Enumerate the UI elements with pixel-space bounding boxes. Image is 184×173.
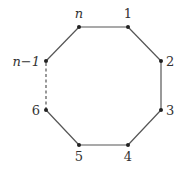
edge-n-1-n — [46, 27, 79, 61]
vertex-4 — [126, 143, 130, 147]
vertex-n-1 — [44, 59, 48, 63]
vertex-label-5: 5 — [75, 149, 83, 164]
vertex-n — [77, 25, 81, 29]
vertex-1 — [126, 25, 130, 29]
labels-group: n123456n−1 — [12, 6, 174, 164]
vertex-label-3: 3 — [166, 103, 174, 118]
edge-1-2 — [128, 27, 161, 61]
vertex-label-n: n — [75, 6, 83, 21]
vertex-label-4: 4 — [124, 149, 132, 164]
vertex-label-1: 1 — [124, 6, 132, 21]
diagram-svg: n123456n−1 — [0, 0, 184, 173]
vertex-label-n-1: n−1 — [12, 54, 40, 69]
edges-group — [46, 27, 161, 145]
vertices-group — [44, 25, 163, 147]
edge-3-4 — [128, 110, 161, 145]
cycle-graph-diagram: n123456n−1 — [0, 0, 184, 173]
edge-5-6 — [46, 110, 79, 145]
vertex-label-2: 2 — [166, 54, 174, 69]
vertex-2 — [159, 59, 163, 63]
vertex-5 — [77, 143, 81, 147]
vertex-label-6: 6 — [32, 103, 40, 118]
vertex-6 — [44, 108, 48, 112]
vertex-3 — [159, 108, 163, 112]
